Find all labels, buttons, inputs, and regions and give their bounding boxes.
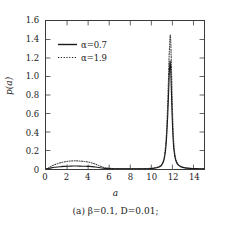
y-tick-label: 1.2 xyxy=(26,53,39,62)
figure-panel: 00.20.40.60.81.01.21.41.6 p(a) α=0.7 α=1… xyxy=(0,0,231,231)
legend-label-alpha-0-7: α=0.7 xyxy=(81,40,107,50)
legend-line-dotted-icon xyxy=(58,54,77,61)
y-tick-label: 1.4 xyxy=(26,35,39,44)
series-curve-0 xyxy=(46,61,204,169)
y-axis-title: p(a) xyxy=(4,77,14,95)
x-axis-tick-labels: 02468101214 xyxy=(45,173,205,187)
legend-label-alpha-1-9: α=1.9 xyxy=(81,53,107,63)
figure-caption: (a) β=0.1, D=0.01; xyxy=(0,206,231,216)
x-tick-label: 12 xyxy=(168,173,179,182)
legend-item-alpha-0-7: α=0.7 xyxy=(58,38,132,51)
x-axis-title-text: a xyxy=(113,188,118,198)
x-tick-label: 14 xyxy=(189,173,200,182)
x-tick-label: 6 xyxy=(106,173,111,182)
legend-item-alpha-1-9: α=1.9 xyxy=(58,51,132,64)
y-tick-label: 0.2 xyxy=(26,147,39,156)
y-axis-title-text: p(a) xyxy=(4,77,14,95)
y-tick-label: 0.8 xyxy=(26,91,39,100)
y-tick-label: 1.6 xyxy=(26,16,39,25)
legend: α=0.7 α=1.9 xyxy=(58,38,132,64)
y-tick-label: 0.6 xyxy=(26,110,39,119)
x-tick-label: 0 xyxy=(42,173,47,182)
x-tick-label: 2 xyxy=(64,173,69,182)
y-tick-label: 0.4 xyxy=(26,128,39,137)
y-tick-label: 1.0 xyxy=(26,72,39,81)
x-axis-title: a xyxy=(0,188,231,198)
x-tick-label: 8 xyxy=(128,173,133,182)
y-tick-label: 0 xyxy=(34,166,39,175)
x-tick-label: 4 xyxy=(85,173,90,182)
legend-line-solid-icon xyxy=(58,41,77,48)
x-tick-label: 10 xyxy=(146,173,157,182)
y-axis-tick-labels: 00.20.40.60.81.01.21.41.6 xyxy=(0,20,42,170)
